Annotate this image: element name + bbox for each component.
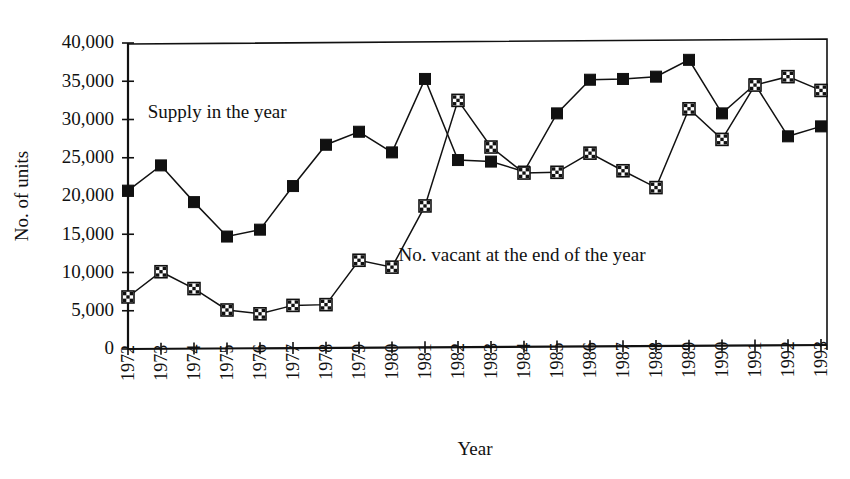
marker-cell — [361, 262, 364, 265]
marker-cell — [724, 134, 727, 137]
marker-cell — [750, 80, 753, 83]
marker-cell — [130, 299, 133, 302]
marker-cell — [291, 304, 294, 307]
x-axis-tick-label: 1985 — [547, 343, 567, 379]
marker-cell — [691, 104, 694, 107]
data-point-marker — [254, 308, 266, 320]
data-point-marker — [122, 291, 134, 303]
y-axis-tick-label: 40,000 — [62, 31, 114, 52]
marker-cell — [790, 72, 793, 75]
marker-cell — [460, 102, 463, 105]
marker-cell — [453, 102, 456, 105]
data-point-marker — [321, 139, 332, 150]
x-axis-tick-label: 1986 — [580, 342, 600, 378]
marker-cell — [486, 149, 489, 152]
data-point-marker — [288, 181, 299, 192]
marker-cell — [658, 183, 661, 186]
marker-cell — [192, 287, 195, 290]
marker-cell — [691, 110, 694, 113]
data-point-marker — [716, 133, 728, 145]
data-point-marker — [486, 156, 497, 167]
marker-cell — [555, 171, 558, 174]
marker-cell — [123, 299, 126, 302]
marker-cell — [684, 110, 687, 113]
marker-cell — [783, 72, 786, 75]
data-point-marker — [221, 304, 233, 316]
x-axis-tick-label: 1991 — [745, 341, 765, 377]
marker-cell — [159, 270, 162, 273]
data-point-marker — [353, 254, 365, 266]
data-point-marker — [684, 54, 695, 65]
marker-cell — [354, 255, 357, 258]
x-axis-tick-label: 1987 — [613, 342, 633, 378]
data-point-marker — [551, 166, 563, 178]
marker-cell — [585, 148, 588, 151]
marker-cell — [222, 312, 225, 315]
data-point-marker — [650, 182, 662, 194]
marker-cell — [526, 175, 529, 178]
marker-cell — [493, 149, 496, 152]
data-point-marker — [782, 71, 794, 83]
marker-cell — [453, 95, 456, 98]
data-point-marker — [783, 131, 794, 142]
x-axis-tick-label: 1988 — [646, 342, 666, 378]
marker-cell — [724, 141, 727, 144]
marker-cell — [130, 292, 133, 295]
data-point-marker — [420, 73, 431, 84]
marker-cell — [493, 142, 496, 145]
data-point-marker — [717, 108, 728, 119]
data-point-marker — [387, 147, 398, 158]
marker-cell — [427, 201, 430, 204]
marker-cell — [750, 87, 753, 90]
x-axis-tick-label: 1982 — [448, 343, 468, 379]
marker-cell — [585, 155, 588, 158]
marker-cell — [559, 174, 562, 177]
marker-cell — [321, 300, 324, 303]
marker-cell — [519, 175, 522, 178]
supply-series-label: Supply in the year — [148, 101, 287, 122]
data-point-marker — [453, 155, 464, 166]
x-axis-tick-label: 1972 — [118, 345, 138, 381]
marker-cell — [816, 92, 819, 95]
marker-cell — [790, 78, 793, 81]
x-axis-tick-label: 1979 — [349, 344, 369, 380]
data-point-marker — [189, 197, 200, 208]
y-axis-title: No. of units — [11, 151, 32, 241]
x-axis-tick-label: 1973 — [151, 345, 171, 381]
marker-cell — [819, 89, 822, 92]
data-point-marker — [419, 200, 431, 212]
marker-cell — [123, 292, 126, 295]
marker-cell — [625, 166, 628, 169]
marker-cell — [687, 107, 690, 110]
marker-cell — [394, 269, 397, 272]
line-chart-figure: 40,00035,00030,00025,00020,00015,00010,0… — [0, 0, 850, 479]
marker-cell — [196, 290, 199, 293]
data-point-marker — [618, 73, 629, 84]
marker-cell — [156, 267, 159, 270]
marker-cell — [262, 315, 265, 318]
marker-cell — [420, 201, 423, 204]
data-point-marker — [585, 74, 596, 85]
marker-cell — [394, 262, 397, 265]
marker-cell — [786, 75, 789, 78]
x-axis-tick-label: 1993 — [811, 341, 831, 377]
marker-cell — [163, 273, 166, 276]
x-axis-tick-label: 1975 — [217, 344, 237, 380]
marker-cell — [328, 300, 331, 303]
marker-cell — [526, 168, 529, 171]
y-axis-tick-label: 30,000 — [62, 108, 114, 129]
marker-cell — [651, 189, 654, 192]
marker-cell — [460, 95, 463, 98]
x-axis-tick-label: 1992 — [778, 341, 798, 377]
marker-cell — [522, 171, 525, 174]
y-axis-tick-label: 20,000 — [62, 184, 114, 205]
marker-cell — [126, 295, 129, 298]
marker-cell — [357, 259, 360, 262]
marker-cell — [757, 80, 760, 83]
marker-cell — [654, 186, 657, 189]
marker-cell — [816, 85, 819, 88]
marker-cell — [427, 208, 430, 211]
x-axis-tick-label: 1978 — [316, 344, 336, 380]
marker-cell — [387, 269, 390, 272]
data-point-marker — [287, 299, 299, 311]
